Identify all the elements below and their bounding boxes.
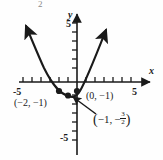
fraction-numerator: 3 — [120, 111, 126, 118]
point-label-vertex: ( −1, − 3 2 ) — [93, 112, 131, 128]
x-axis-label: x — [149, 66, 154, 76]
point-label-neg2-neg1: (−2, −1) — [14, 98, 47, 108]
fraction-denominator: 2 — [120, 118, 126, 126]
y-tick-label-5: 5 — [66, 19, 71, 29]
x-tick-label-5: 5 — [132, 87, 137, 97]
vertex-label-x-value: −1, — [98, 114, 112, 125]
parabola-curve — [26, 26, 106, 97]
point-0-neg1 — [74, 88, 80, 94]
page-number-artifact: 2 — [38, 0, 43, 9]
y-axis — [72, 14, 77, 155]
vertex-label-fraction: 3 2 — [120, 111, 126, 127]
graph-figure: 2 y x 5 -5 -5 5 (−2, −1) (0, −1) ( −1, −… — [0, 0, 163, 160]
x-tick-label-negative-5: -5 — [13, 87, 21, 97]
point-neg2-neg1 — [56, 88, 62, 94]
coordinate-plane-svg — [0, 0, 163, 160]
vertex-label-close-paren: ) — [126, 113, 131, 127]
y-tick-label-negative-5: -5 — [60, 133, 68, 143]
point-label-0-neg1: (0, −1) — [86, 91, 113, 101]
point-neg1-neg1point5 — [65, 92, 71, 98]
